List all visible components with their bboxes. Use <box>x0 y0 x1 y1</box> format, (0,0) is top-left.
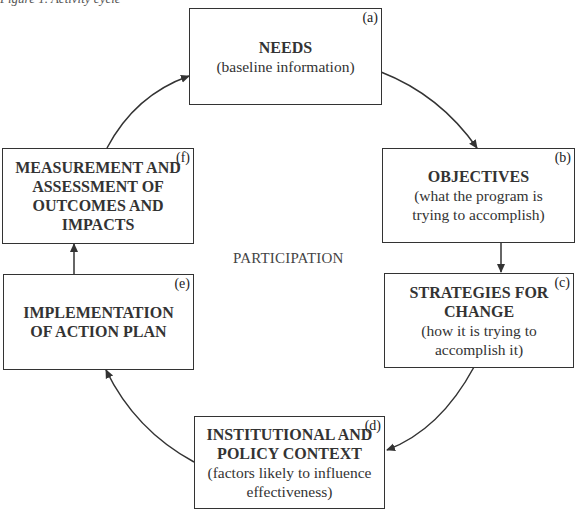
box-objectives: (b) OBJECTIVES (what the program is tryi… <box>382 148 575 243</box>
box-title-line-4: IMPACTS <box>62 215 135 234</box>
box-title-line-2: OF ACTION PLAN <box>30 322 166 341</box>
box-subtitle-line-2: accomplish it) <box>435 340 523 359</box>
box-implementation: (e) IMPLEMENTATION OF ACTION PLAN <box>3 274 194 370</box>
box-subtitle: (baseline information) <box>216 57 354 76</box>
box-title-line-1: MEASUREMENT AND <box>15 158 181 177</box>
box-title: NEEDS <box>259 38 312 57</box>
box-tag: (a) <box>362 10 378 26</box>
box-institutional-policy-context: (d) INSTITUTIONAL AND POLICY CONTEXT (fa… <box>194 416 385 509</box>
box-subtitle-line-1: (how it is trying to <box>421 321 536 340</box>
box-measurement-assessment: (f) MEASUREMENT AND ASSESSMENT OF OUTCOM… <box>2 148 194 244</box>
box-needs: (a) NEEDS (baseline information) <box>189 8 382 105</box>
box-title: OBJECTIVES <box>428 167 529 186</box>
box-title-line-2: ASSESSMENT OF <box>32 177 164 196</box>
box-tag: (e) <box>174 276 190 292</box>
box-title-line-2: POLICY CONTEXT <box>217 444 362 463</box>
box-title-line-2: CHANGE <box>444 302 514 321</box>
box-subtitle-line-2: trying to accomplish) <box>412 205 545 224</box>
arrow-a-to-b <box>381 72 477 148</box>
box-tag: (d) <box>365 418 381 434</box>
box-tag: (f) <box>176 150 190 166</box>
box-title-line-1: INSTITUTIONAL AND <box>207 425 373 444</box>
participation-label: PARTICIPATION <box>233 250 344 267</box>
box-strategies-for-change: (c) STRATEGIES FOR CHANGE (how it is try… <box>384 273 574 368</box>
arrow-d-to-e <box>106 370 194 462</box>
box-subtitle-line-1: (what the program is <box>414 186 543 205</box>
box-title-line-1: IMPLEMENTATION <box>23 303 174 322</box>
box-subtitle-line-1: (factors likely to influence <box>208 463 372 482</box>
arrow-f-to-a <box>107 76 189 148</box>
box-title-line-3: OUTCOMES AND <box>32 196 163 215</box>
arrow-c-to-d <box>387 367 474 450</box>
box-tag: (c) <box>554 275 570 291</box>
box-title-line-1: STRATEGIES FOR <box>410 283 549 302</box>
box-subtitle-line-2: effectiveness) <box>247 482 333 501</box>
box-tag: (b) <box>555 150 571 166</box>
